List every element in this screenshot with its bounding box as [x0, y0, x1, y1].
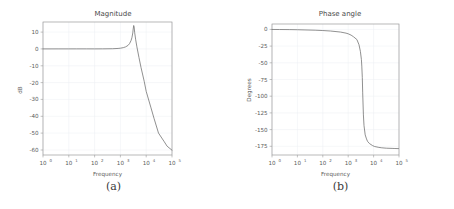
- magnitude-chart-svg: Magnitude: [0, 0, 227, 180]
- svg-text:2: 2: [101, 158, 104, 163]
- svg-text:10: 10: [294, 160, 302, 166]
- xtick-label-mag-5: 10 5: [168, 158, 181, 166]
- ytick-label-phase-1: -25: [258, 43, 268, 49]
- ytick-label-phase-4: -100: [255, 93, 268, 99]
- svg-text:5: 5: [179, 158, 182, 163]
- ytick-label-mag-0: 10: [31, 29, 39, 35]
- x-ticks-magnitude: 10 0 10 1 10 2 10 3 10 4: [39, 155, 181, 166]
- svg-text:10: 10: [143, 160, 151, 166]
- ytick-label-phase-3: -75: [258, 77, 268, 83]
- xtick-label-phase-1: 10 1: [294, 158, 307, 166]
- ytick-label-phase-0: 0: [264, 26, 268, 32]
- ytick-label-mag-4: -30: [29, 96, 39, 102]
- y-ticks-magnitude: 10 0 -10 -20 -30 -40 -50 -60: [29, 29, 43, 153]
- xaxis-label-phase: Frequency: [321, 171, 351, 178]
- svg-text:0: 0: [50, 158, 53, 163]
- ytick-label-phase-7: -175: [255, 143, 268, 149]
- svg-text:1: 1: [75, 158, 78, 163]
- xtick-label-phase-4: 10 4: [370, 158, 383, 166]
- xaxis-label-magnitude: Frequency: [93, 171, 123, 178]
- svg-text:10: 10: [268, 160, 276, 166]
- ytick-label-phase-5: -125: [255, 110, 268, 116]
- xtick-label-mag-2: 10 2: [91, 158, 104, 166]
- ytick-label-mag-7: -60: [29, 147, 39, 153]
- plot-frame-phase: [272, 24, 399, 155]
- panel-caption-a: (a): [0, 180, 227, 193]
- gridlines-phase: [272, 24, 399, 155]
- ytick-label-phase-6: -150: [255, 127, 268, 133]
- svg-text:10: 10: [39, 160, 47, 166]
- yaxis-label-phase: Degrees: [246, 78, 253, 101]
- phase-curve: [272, 29, 399, 148]
- gridlines-magnitude: [43, 22, 172, 155]
- ytick-label-mag-2: -10: [29, 63, 39, 69]
- svg-text:10: 10: [168, 160, 176, 166]
- yaxis-label-magnitude: dB: [17, 86, 23, 94]
- svg-text:3: 3: [127, 158, 130, 163]
- ytick-label-mag-6: -50: [29, 130, 39, 136]
- chart-title-magnitude: Magnitude: [94, 10, 131, 18]
- svg-text:10: 10: [345, 160, 353, 166]
- panel-magnitude: Magnitude: [0, 0, 227, 209]
- svg-text:3: 3: [355, 158, 358, 163]
- svg-text:10: 10: [65, 160, 73, 166]
- svg-text:10: 10: [117, 160, 125, 166]
- svg-text:2: 2: [329, 158, 332, 163]
- xtick-label-phase-5: 10 5: [395, 158, 408, 166]
- svg-text:10: 10: [370, 160, 378, 166]
- svg-text:5: 5: [406, 158, 409, 163]
- svg-text:4: 4: [380, 158, 383, 163]
- plot-frame-magnitude: [43, 22, 172, 155]
- ytick-label-phase-2: -50: [258, 60, 268, 66]
- xtick-label-mag-4: 10 4: [143, 158, 156, 166]
- svg-text:0: 0: [279, 158, 282, 163]
- chart-title-phase: Phase angle: [319, 10, 362, 18]
- figure-container: Magnitude: [0, 0, 454, 209]
- ytick-label-mag-1: 0: [35, 46, 39, 52]
- panel-caption-b: (b): [227, 180, 454, 193]
- panel-phase: Phase angle: [227, 0, 454, 209]
- xtick-label-phase-3: 10 3: [345, 158, 358, 166]
- phase-chart-svg: Phase angle: [227, 0, 454, 180]
- svg-text:4: 4: [153, 158, 156, 163]
- xtick-label-mag-3: 10 3: [117, 158, 130, 166]
- magnitude-curve: [43, 25, 172, 150]
- ytick-label-mag-3: -20: [29, 80, 39, 86]
- x-ticks-phase: 10 0 10 1 10 2 10 3 10 4: [268, 155, 408, 166]
- xtick-label-mag-0: 10 0: [39, 158, 52, 166]
- ytick-label-mag-5: -40: [29, 113, 39, 119]
- svg-text:10: 10: [319, 160, 327, 166]
- svg-text:10: 10: [395, 160, 403, 166]
- svg-text:1: 1: [304, 158, 307, 163]
- xtick-label-phase-0: 10 0: [268, 158, 281, 166]
- y-ticks-phase: 0 -25 -50 -75 -100 -125 -150 -175: [255, 26, 272, 149]
- xtick-label-phase-2: 10 2: [319, 158, 332, 166]
- svg-text:10: 10: [91, 160, 99, 166]
- xtick-label-mag-1: 10 1: [65, 158, 78, 166]
